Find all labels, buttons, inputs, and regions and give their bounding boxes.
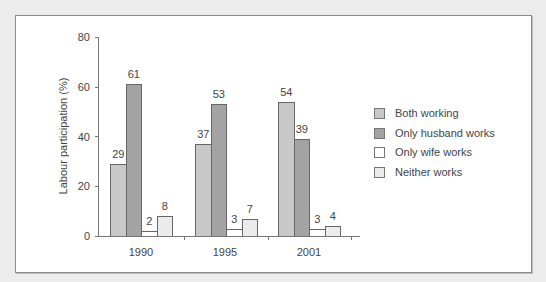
bar-value-label: 8 — [155, 200, 175, 212]
legend-label: Neither works — [395, 166, 462, 178]
x-tick — [351, 236, 352, 240]
bar-value-label: 54 — [276, 86, 296, 98]
x-category-2001: 2001 — [289, 246, 329, 258]
bar-neither-works-2001 — [325, 226, 342, 236]
bar-only-wife-works-2001 — [309, 229, 326, 236]
y-tick-label-0: 0 — [66, 230, 90, 242]
y-tick-label-60: 60 — [66, 81, 90, 93]
x-tick — [184, 236, 185, 240]
bar-value-label: 7 — [240, 203, 260, 215]
bar-value-label: 4 — [323, 210, 343, 222]
y-tick-label-80: 80 — [66, 31, 90, 43]
legend-swatch — [374, 108, 385, 119]
y-tick-label-20: 20 — [66, 180, 90, 192]
bar-both-working-1995 — [195, 144, 212, 236]
bar-value-label: 53 — [209, 88, 229, 100]
x-axis — [98, 236, 360, 237]
bar-only-husband-works-1990 — [126, 84, 143, 236]
bar-chart: Labour participation (%) 0 20 40 60 80 1… — [0, 0, 546, 282]
y-tick — [95, 37, 99, 38]
bar-neither-works-1990 — [157, 216, 174, 236]
bar-both-working-2001 — [278, 102, 295, 236]
y-tick — [95, 136, 99, 137]
legend-swatch — [374, 147, 385, 158]
bar-only-wife-works-1995 — [226, 229, 243, 236]
bar-both-working-1990 — [110, 164, 127, 236]
bar-value-label: 61 — [124, 68, 144, 80]
x-category-1990: 1990 — [121, 246, 161, 258]
x-tick — [268, 236, 269, 240]
bar-only-wife-works-1990 — [141, 231, 158, 236]
legend-swatch — [374, 167, 385, 178]
bar-neither-works-1995 — [242, 219, 259, 236]
y-tick-label-40: 40 — [66, 131, 90, 143]
legend-label: Only husband works — [395, 127, 495, 139]
legend-swatch — [374, 128, 385, 139]
x-category-1995: 1995 — [205, 246, 245, 258]
y-tick — [95, 186, 99, 187]
y-tick — [95, 236, 99, 237]
bar-value-label: 39 — [292, 123, 312, 135]
legend-label: Only wife works — [395, 146, 472, 158]
legend-label: Both working — [395, 107, 459, 119]
y-tick — [95, 87, 99, 88]
